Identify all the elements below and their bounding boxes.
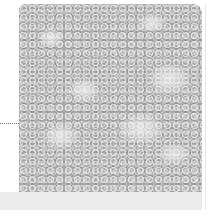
divider xyxy=(205,4,206,210)
clear-patch xyxy=(69,79,99,101)
clear-patch xyxy=(119,114,163,144)
clear-patch xyxy=(149,64,189,94)
clear-patch xyxy=(139,14,165,32)
clear-patch xyxy=(39,29,63,47)
clear-patch xyxy=(44,124,78,148)
dotted-leader-line xyxy=(0,123,19,124)
caption-band xyxy=(0,192,202,210)
clear-patch xyxy=(159,144,189,164)
microscopy-image xyxy=(19,4,202,192)
